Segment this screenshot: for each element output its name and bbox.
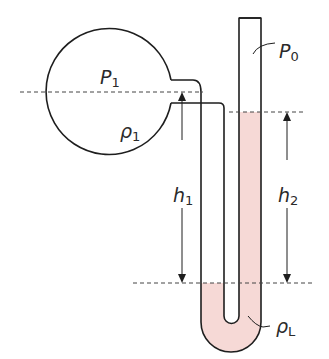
diagram-svg: P1 ρ1 P0 h1 h2 ρL	[0, 0, 329, 359]
label-h1: h1	[173, 184, 193, 208]
label-p1: P1	[100, 66, 120, 90]
label-h2: h2	[278, 184, 298, 208]
manometer-diagram: P1 ρ1 P0 h1 h2 ρL	[0, 0, 329, 359]
label-p0: P0	[279, 40, 299, 64]
label-rhoL: ρL	[276, 315, 296, 339]
label-rho1: ρ1	[120, 120, 140, 144]
p0-leader-line	[253, 43, 275, 54]
liquid-region	[201, 112, 261, 352]
